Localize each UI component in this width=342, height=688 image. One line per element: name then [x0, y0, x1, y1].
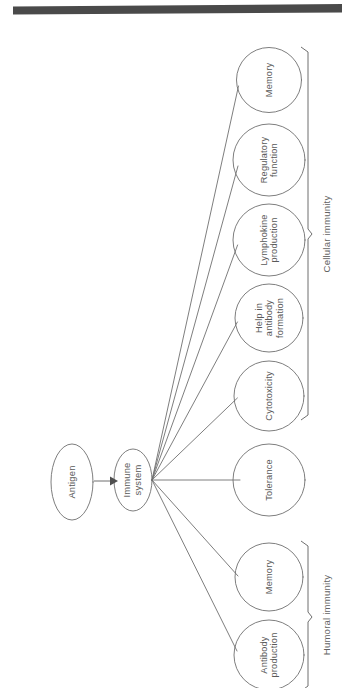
connector-to-cytotoxicity	[152, 398, 237, 480]
page-header-rule-target	[10, 2, 342, 18]
node-help-in-antibody-formation[interactable]	[235, 284, 303, 352]
node-immune-system[interactable]	[113, 448, 153, 512]
connector-to-regulatory-function	[152, 166, 238, 480]
node-regulatory-function[interactable]	[233, 124, 305, 196]
node-cytotoxicity[interactable]	[234, 361, 304, 431]
diagram-canvas: Antigen Immune system Memory Regulatory …	[0, 0, 342, 688]
node-antigen[interactable]	[50, 443, 94, 521]
connector-to-lymphokine-production	[152, 245, 238, 480]
connector-to-help-in-antibody-formation	[152, 322, 237, 480]
node-lymphokine-production[interactable]	[233, 204, 305, 276]
node-tolerance[interactable]	[233, 444, 305, 516]
node-antibody-production[interactable]	[234, 620, 304, 688]
node-memory-cellular[interactable]	[237, 48, 302, 113]
node-memory-humoral[interactable]	[235, 543, 303, 611]
connector-to-memory-humoral	[152, 480, 238, 576]
connector-to-memory-cellular	[152, 86, 239, 480]
connector-to-antibody-production	[152, 480, 237, 651]
